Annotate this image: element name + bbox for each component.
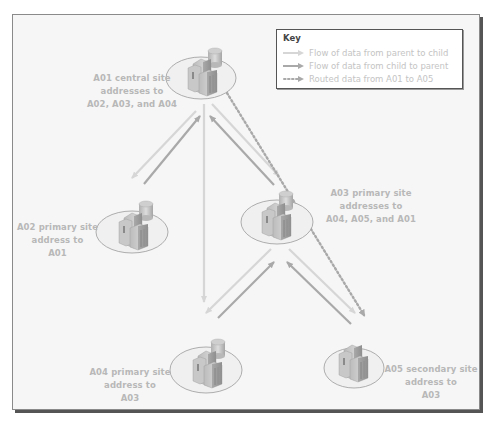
arrow-a03-to-a05: [289, 249, 355, 313]
legend-item-parent-to-child: Flow of data from parent to child: [283, 46, 448, 59]
legend-title: Key: [283, 33, 301, 43]
arrow-a05-to-a03: [287, 262, 351, 324]
arrow-a01-to-a03: [212, 104, 279, 176]
dotted-arrow-icon: [283, 75, 305, 83]
site-a03: [241, 191, 313, 244]
label-a05: A05 secondary site address to A03: [384, 363, 478, 402]
label-a03: A03 primary site addresses to A04, A05, …: [316, 187, 426, 226]
site-a04: [170, 339, 242, 393]
arrow-a03-to-a04: [206, 249, 271, 313]
dark-arrow-icon: [283, 62, 305, 70]
legend-item-routed: Routed data from A01 to A05: [283, 72, 433, 85]
legend-key: Key Flow of data from parent to child Fl…: [276, 29, 463, 89]
arrow-a04-to-a03: [218, 262, 274, 318]
label-a01: A01 central site addresses to A02, A03, …: [78, 72, 186, 111]
site-a02: [96, 201, 168, 253]
legend-item-child-to-parent: Flow of data from child to parent: [283, 59, 448, 72]
site-a05: [324, 345, 384, 388]
label-a02: A02 primary site address to A01: [10, 221, 105, 260]
arrow-a03-to-a01: [210, 116, 274, 185]
label-a04: A04 primary site address to A03: [84, 366, 176, 405]
arrow-a01-to-a02: [132, 111, 196, 178]
light-arrow-icon: [283, 49, 305, 57]
arrow-a02-to-a01: [144, 116, 200, 184]
